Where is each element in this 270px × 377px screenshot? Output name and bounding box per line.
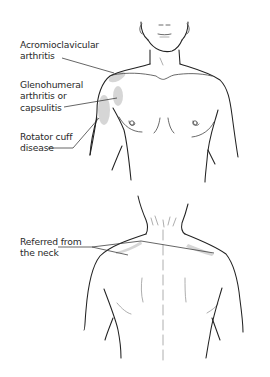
referred-pain-area-left xyxy=(116,241,142,254)
label-rotator-cuff-disease: Rotator cuff disease xyxy=(20,131,72,154)
glenohumeral-pain-area xyxy=(113,86,123,106)
back-torso-figure xyxy=(58,196,243,360)
label-glenohumeral-arthritis: Glenohumeral arthritis or capsulitis xyxy=(20,79,83,113)
referred-pain-area-right xyxy=(186,244,214,256)
label-acromioclavicular-arthritis: Acromioclavicular arthritis xyxy=(20,39,99,62)
label-referred-from-neck: Referred from the neck xyxy=(20,236,82,259)
